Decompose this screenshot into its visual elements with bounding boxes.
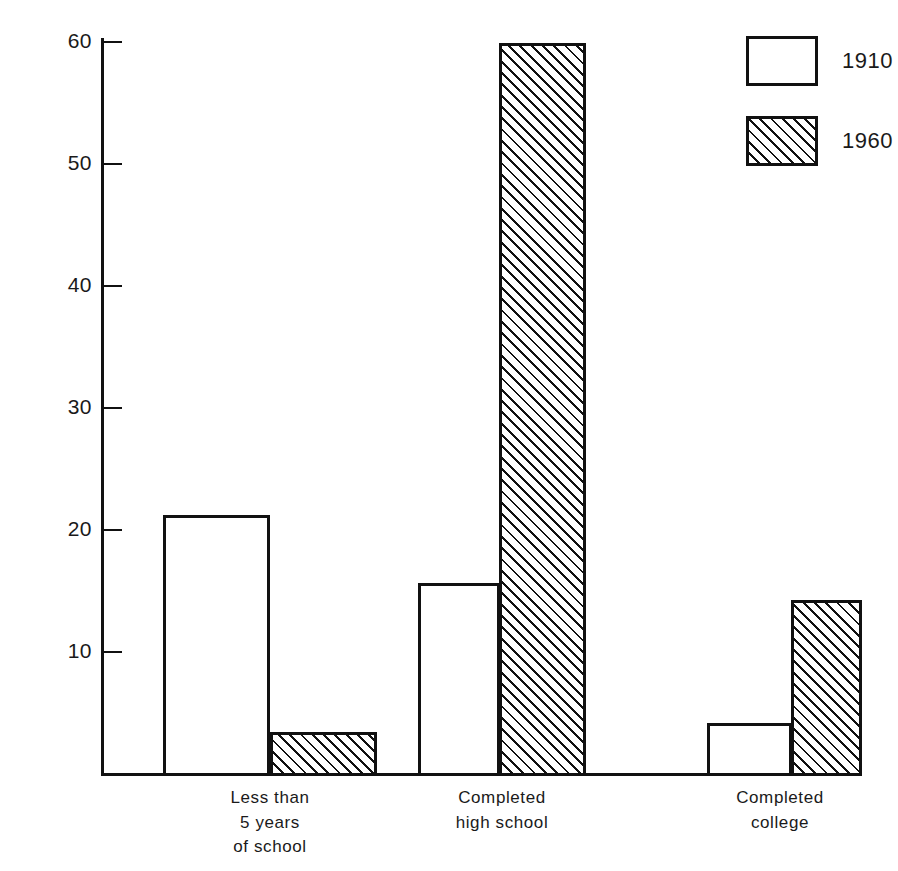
x-category-label-0-line3: of school: [163, 835, 377, 860]
y-tick-label-10-wrap: 10: [40, 639, 92, 663]
y-tick-50: [104, 163, 122, 165]
legend-label-1910: 1910: [842, 48, 893, 74]
bar-1960-completed-high-school: [499, 43, 586, 776]
y-tick-label-30-wrap: 30: [40, 395, 92, 419]
x-category-label-1-line2: high school: [400, 811, 604, 836]
y-tick-20: [104, 529, 122, 531]
legend-swatch-1960: [746, 116, 818, 166]
y-tick-label-40-wrap: 40: [40, 273, 92, 297]
y-tick-label-40: 40: [46, 273, 92, 297]
x-category-label-0: Less than 5 years of school: [163, 786, 377, 860]
legend-row-1960: 1960: [746, 116, 896, 196]
legend-row-1910: 1910: [746, 36, 896, 116]
bar-1960-less-than-5-years: [270, 732, 377, 776]
y-tick-label-50-wrap: 50: [40, 151, 92, 175]
legend-label-1960: 1960: [842, 128, 893, 154]
y-tick-label-20: 20: [46, 517, 92, 541]
y-tick-30: [104, 407, 122, 409]
x-category-label-0-line1: Less than: [163, 786, 377, 811]
x-category-label-1-line1: Completed: [400, 786, 604, 811]
bar-1910-less-than-5-years: [163, 515, 270, 776]
bar-1910-completed-college: [707, 723, 792, 776]
legend-swatch-1910: [746, 36, 818, 86]
bar-1910-completed-high-school: [418, 583, 500, 776]
x-category-label-2: Completed college: [690, 786, 870, 835]
y-tick-label-60-wrap: 60: [40, 29, 92, 53]
x-category-label-0-line2: 5 years: [163, 811, 377, 836]
y-tick-label-10: 10: [46, 639, 92, 663]
x-category-label-2-line1: Completed: [690, 786, 870, 811]
bar-1960-completed-college: [791, 600, 862, 776]
x-category-label-1: Completed high school: [400, 786, 604, 835]
y-tick-40: [104, 285, 122, 287]
x-category-label-2-line2: college: [690, 811, 870, 836]
y-tick-60: [104, 41, 122, 43]
y-tick-label-60: 60: [46, 29, 92, 53]
legend: 1910 1960: [746, 36, 896, 196]
bar-chart-figure: Percent 60 50 40 30 20 10: [0, 0, 898, 871]
y-tick-label-20-wrap: 20: [40, 517, 92, 541]
y-tick-10: [104, 651, 122, 653]
y-tick-label-50: 50: [46, 151, 92, 175]
y-tick-label-30: 30: [46, 395, 92, 419]
